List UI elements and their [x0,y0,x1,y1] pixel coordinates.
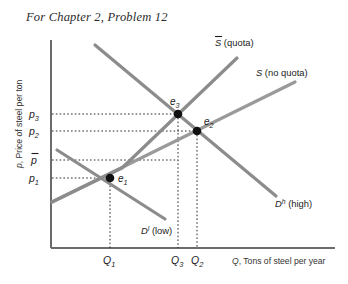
supply-demand-chart: e1 e2 e3 p3 p2 p p1 Q1 Q3 Q2 S (quota) S… [0,0,348,284]
curve-label-demand-low: Dl (low) [141,225,172,236]
y-axis-title: p, Price of steel per ton [14,79,24,169]
curve-label-supply-no-quota: S (no quota) [256,67,308,78]
point-label-e1: e1 [118,173,128,187]
x-axis-title: Q, Tons of steel per year [232,256,326,266]
curve-label-supply-quota: S (quota) [215,37,254,48]
point-e1 [106,174,115,183]
x-tick-q2: Q2 [191,254,203,269]
y-tick-p3: p3 [28,108,40,123]
y-tick-p2: p2 [28,125,39,140]
point-e3 [174,110,183,119]
y-tick-pbar: p [30,154,37,166]
curve-label-demand-high: Dh (high) [275,198,312,209]
y-tick-p1: p1 [28,172,39,187]
curve-supply-quota [52,58,237,202]
figure-container: For Chapter 2, Problem 12 [0,0,348,284]
x-tick-q1: Q1 [103,254,115,269]
curve-demand-low [57,150,165,219]
point-e2 [193,127,202,136]
x-tick-q3: Q3 [171,254,184,269]
